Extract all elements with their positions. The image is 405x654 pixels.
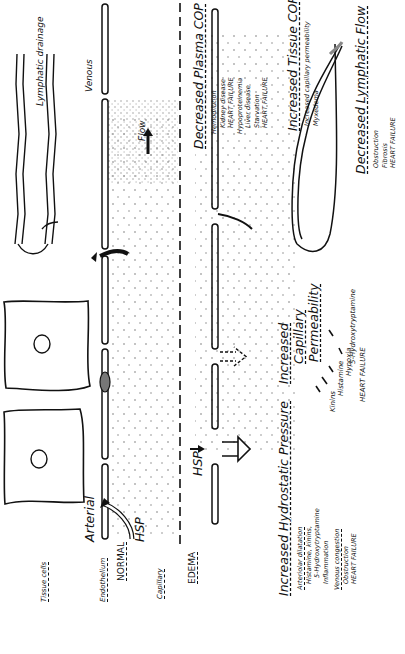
label-tissue-cells: Tissue cells (41, 562, 48, 602)
hydrostatic-item: Arteriolar dilatation (296, 508, 305, 590)
label-edema: EDEMA (188, 552, 197, 584)
capillary-wall-normal (102, 4, 108, 539)
plasma-cop-item: Hemodilution (210, 77, 219, 134)
plasma-cop-item: Kidney disease (219, 77, 228, 134)
label-venous: Venous (85, 59, 94, 92)
hydrostatic-item: Histamine, kinins, (305, 508, 314, 590)
lymphatic-flow-item: Fibrosis (381, 117, 390, 168)
permeability-title-2: Capillary (293, 309, 306, 364)
label-hsp-normal: HSP (134, 517, 147, 542)
permeability-title-1: Increased (278, 323, 291, 384)
lymphatic-flow-title: Decreased Lymphatic Flow (355, 6, 368, 174)
hydrostatic-item: 5-Hydroxytryptamine (313, 508, 322, 590)
tissue-cell-1 (4, 409, 84, 504)
lymphatic-flow-item: Obstruction (372, 117, 381, 168)
label-lymphatic-drainage: Lymphatic drainage (36, 17, 45, 106)
plasma-cop-causes: Hemodilution Kidney disease HEART FAILUR… (210, 77, 270, 134)
plasma-cop-item: HEART FAILURE (261, 77, 270, 134)
plasma-cop-title: Decreased Plasma COP (193, 3, 206, 149)
tissue-cop-causes: Increased capillary permeability Myxedem… (303, 21, 320, 126)
cell-nucleus-1 (31, 450, 47, 468)
label-capillary: Capillary (157, 568, 164, 599)
tissue-cop-title: Increased Tissue COP (287, 0, 300, 131)
label-endothelium: Endothelium (100, 558, 107, 602)
permeability-title-3: Permeability (308, 283, 321, 362)
venous-dense-stipple (108, 99, 178, 184)
plasma-cop-item: Hypoproteinemia (236, 77, 245, 134)
tissue-cop-item: Increased capillary permeability (303, 21, 312, 126)
plasma-cop-item: Liver disease (244, 77, 253, 134)
edema-diagram: Tissue cells Endothelium NORMAL Capillar… (0, 0, 405, 654)
lymphatic-flow-item: HEART FAILURE (389, 117, 398, 168)
label-flow: Flow (138, 120, 147, 141)
label-hsp-edema: HSP (192, 451, 205, 476)
tissue-cop-item: Myxedema (312, 21, 321, 126)
tissue-cell-2 (4, 301, 90, 390)
cause-5ht: 5-Hydroxytryptamine (350, 289, 357, 364)
cause-histamine: Histamine (338, 361, 345, 396)
hydrostatic-causes: Arteriolar dilatation Histamine, kinins,… (296, 508, 359, 590)
endothelial-nucleus (100, 372, 110, 392)
hydrostatic-title: Increased Hydrostatic Pressure (278, 401, 291, 596)
lymphatic-flow-causes: Obstruction Fibrosis HEART FAILURE (372, 117, 398, 168)
hydrostatic-item: Venous congestion (333, 508, 342, 590)
label-arterial: Arterial (84, 496, 97, 542)
label-normal: NORMAL (117, 542, 126, 581)
hydrostatic-item: Inflammation (322, 508, 331, 590)
hydrostatic-item: Obstruction (342, 508, 351, 590)
plasma-cop-item: HEART FAILURE (227, 77, 236, 134)
permeability-heart-failure: HEART FAILURE (360, 347, 367, 402)
hydrostatic-item: HEART FAILURE (350, 508, 359, 590)
plasma-cop-item: Starvation (253, 77, 262, 134)
cause-kinins: Kinins (330, 391, 337, 412)
cell-nucleus-2 (34, 335, 50, 353)
